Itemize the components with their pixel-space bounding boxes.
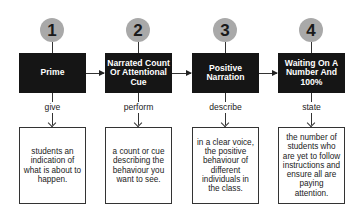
arrow-down-icon bbox=[134, 119, 142, 127]
step-description-box: in a clear voice, the positive behaviour… bbox=[192, 127, 259, 204]
step-title-box: Prime bbox=[19, 53, 86, 93]
step-3: 3 Positive Narration describe in a clear… bbox=[192, 0, 259, 217]
step-number-badge: 4 bbox=[299, 18, 323, 42]
connector-line bbox=[225, 93, 226, 102]
step-verb-label: give bbox=[19, 102, 86, 112]
step-description-box: students an indication of what is about … bbox=[19, 127, 86, 204]
step-2: 2 Narrated Count Or Attentional Cue perf… bbox=[105, 0, 172, 217]
step-4: 4 Waiting On A Number And 100% state the… bbox=[278, 0, 345, 217]
step-description: the number of students who are yet to fo… bbox=[282, 133, 341, 198]
step-description-box: the number of students who are yet to fo… bbox=[278, 127, 345, 204]
step-description: a count or cue describing the behaviour … bbox=[109, 147, 168, 184]
connector-line bbox=[225, 42, 226, 53]
step-title: Narrated Count Or Attentional Cue bbox=[107, 59, 170, 87]
step-title: Waiting On A Number And 100% bbox=[280, 59, 343, 87]
connector-line bbox=[138, 93, 139, 102]
connector-line bbox=[311, 93, 312, 102]
step-number-badge: 3 bbox=[213, 18, 237, 42]
step-1: 1 Prime give students an indication of w… bbox=[19, 0, 86, 217]
connector-line bbox=[52, 42, 53, 53]
arrow-right-icon bbox=[259, 73, 277, 74]
arrow-down-icon bbox=[221, 119, 229, 127]
connector-line bbox=[52, 93, 53, 102]
step-title: Prime bbox=[41, 68, 65, 77]
step-description: in a clear voice, the positive behaviour… bbox=[196, 138, 255, 194]
arrow-right-icon bbox=[86, 73, 104, 74]
step-verb-label: describe bbox=[192, 102, 259, 112]
step-description: students an indication of what is about … bbox=[23, 147, 82, 184]
arrow-down-icon bbox=[48, 119, 56, 127]
step-title: Positive Narration bbox=[194, 64, 257, 83]
step-verb-label: state bbox=[278, 102, 345, 112]
step-number-badge: 1 bbox=[40, 18, 64, 42]
connector-line bbox=[138, 42, 139, 53]
process-diagram: 1 Prime give students an indication of w… bbox=[0, 0, 363, 217]
connector-line bbox=[311, 42, 312, 53]
arrow-down-icon bbox=[307, 119, 315, 127]
arrow-right-icon bbox=[172, 73, 191, 74]
step-title-box: Positive Narration bbox=[192, 53, 259, 93]
step-title-box: Narrated Count Or Attentional Cue bbox=[105, 53, 172, 93]
step-number-badge: 2 bbox=[126, 18, 150, 42]
step-title-box: Waiting On A Number And 100% bbox=[278, 53, 345, 93]
step-description-box: a count or cue describing the behaviour … bbox=[105, 127, 172, 204]
step-verb-label: perform bbox=[105, 102, 172, 112]
